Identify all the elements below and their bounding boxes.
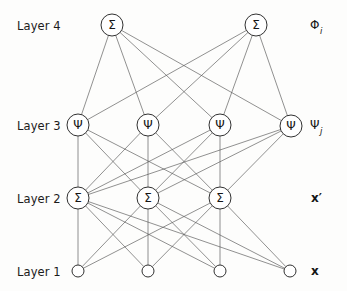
node-glyph: Σ [252,18,260,32]
phi-symbol: Φ [310,18,319,32]
network-edge [82,35,109,114]
node-glyph: Ψ [286,119,295,133]
network-graph-svg: ΣΣΣΨΨΨΨΣΣ [0,0,347,291]
network-node-layer-4[interactable]: Σ [101,14,123,36]
network-edge [88,202,284,269]
layer-label-layer-1: Layer 1 [17,265,61,279]
node-circle [72,265,84,277]
network-edge [120,32,212,117]
network-node-layer-1[interactable] [284,265,296,277]
network-node-layer-2[interactable]: Σ [137,187,159,209]
network-edge [228,134,284,190]
node-glyph: Σ [108,18,116,32]
node-circle [284,265,296,277]
network-diagram: ΣΣΣΨΨΨΨΣΣ Layer 4 Layer 3 Layer 2 Layer … [0,0,347,291]
network-node-layer-1[interactable] [72,265,84,277]
network-edge [224,35,253,114]
network-node-layer-3[interactable]: Ψ [137,114,159,136]
network-edge [158,203,285,268]
network-node-layer-4[interactable]: Σ [245,14,267,36]
network-edge [86,206,144,267]
phi-subscript: i [320,26,322,36]
layer-label-layer-2: Layer 2 [17,192,61,206]
network-edge [83,203,210,268]
network-node-layer-3[interactable]: Ψ [280,115,302,137]
network-node-layer-2[interactable]: Σ [67,187,89,209]
network-edge [88,203,215,268]
node-glyph: Ψ [73,118,82,132]
node-circle [214,265,226,277]
network-edge [260,35,288,115]
psi-symbol: Ψ [310,118,319,132]
network-node-layer-1[interactable] [214,265,226,277]
layer-label-layer-4: Layer 4 [17,19,61,33]
node-glyph: Σ [144,191,152,205]
network-edge [116,35,145,114]
network-edge [156,32,248,117]
network-edge [122,30,282,120]
variable-label-x-prime: x′ [311,191,322,205]
variable-label-phi-i: Φi [310,18,322,34]
node-glyph: Ψ [215,118,224,132]
psi-subscript: j [320,126,322,136]
node-glyph: Σ [74,191,82,205]
network-edge [228,206,286,267]
node-glyph: Ψ [143,118,152,132]
network-node-layer-2[interactable]: Σ [209,187,231,209]
network-edge [88,30,247,119]
variable-label-psi-j: Ψj [310,118,322,134]
network-edge [158,131,281,193]
network-edge [156,206,216,267]
x-symbol: x [311,264,319,278]
network-node-layer-1[interactable] [142,265,154,277]
prime-mark: ′ [319,191,322,205]
edges-group [78,30,287,269]
variable-label-x-input: x [311,264,319,278]
x-prime-symbol: x [311,191,319,205]
node-glyph: Σ [216,191,224,205]
node-circle [142,265,154,277]
layer-label-layer-3: Layer 3 [17,119,61,133]
network-node-layer-3[interactable]: Ψ [67,114,89,136]
network-edge [152,206,212,267]
network-node-layer-3[interactable]: Ψ [209,114,231,136]
